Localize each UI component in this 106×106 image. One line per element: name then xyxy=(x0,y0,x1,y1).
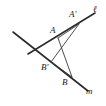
line-label-ell: ℓ xyxy=(93,5,97,14)
segment-a-b xyxy=(58,38,72,77)
line-label-m: m xyxy=(86,87,93,96)
geometry-figure: A A' B B' ℓ m xyxy=(0,0,106,106)
point-label-a: A xyxy=(50,26,56,35)
point-label-a-prime: A' xyxy=(69,10,76,19)
point-label-b-prime: B' xyxy=(41,63,48,72)
point-label-b: B xyxy=(62,78,68,87)
segment-a-aprime xyxy=(58,24,79,38)
